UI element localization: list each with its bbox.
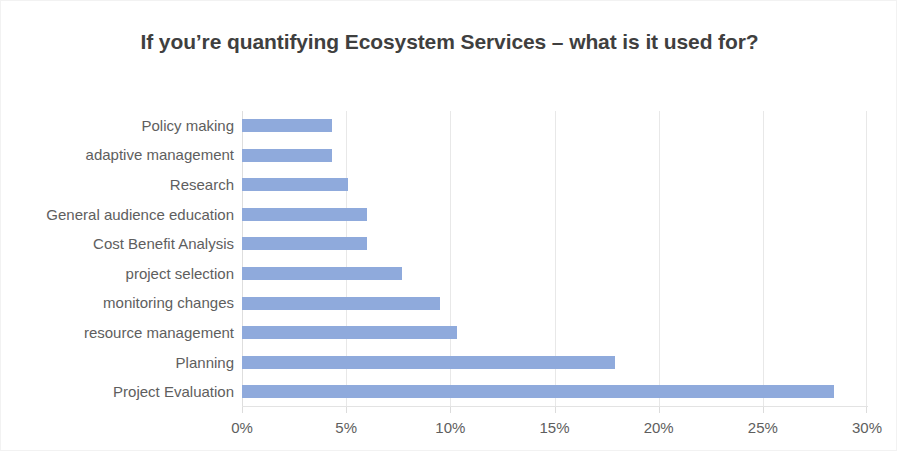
- bar-row: [242, 318, 867, 348]
- bar-row: [242, 259, 867, 289]
- chart-container: If you’re quantifying Ecosystem Services…: [0, 0, 897, 451]
- value-axis-tick-label: 0%: [212, 418, 272, 438]
- bar-row: [242, 348, 867, 378]
- category-label: adaptive management: [4, 146, 234, 164]
- tick-25%: [763, 407, 764, 413]
- bar-row: [242, 170, 867, 200]
- bar-row: [242, 229, 867, 259]
- tick-5%: [346, 407, 347, 413]
- bar[interactable]: [242, 326, 457, 339]
- category-label: General audience education: [4, 206, 234, 224]
- tick-20%: [659, 407, 660, 413]
- bar[interactable]: [242, 178, 348, 191]
- category-label: resource management: [4, 324, 234, 342]
- bar[interactable]: [242, 208, 367, 221]
- bar[interactable]: [242, 149, 332, 162]
- category-label: Project Evaluation: [4, 383, 234, 401]
- category-axis-labels: Policy makingadaptive managementResearch…: [1, 111, 234, 407]
- category-label: Research: [4, 176, 234, 194]
- value-axis-tick-label: 15%: [525, 418, 585, 438]
- bar[interactable]: [242, 356, 615, 369]
- plot-area: [242, 111, 867, 407]
- category-label: Planning: [4, 354, 234, 372]
- tick-0%: [242, 407, 243, 413]
- axis-baseline: [242, 406, 868, 407]
- value-axis-tick-label: 10%: [420, 418, 480, 438]
- bar-row: [242, 111, 867, 141]
- value-axis-tick-label: 20%: [629, 418, 689, 438]
- bar[interactable]: [242, 385, 834, 398]
- bar[interactable]: [242, 267, 402, 280]
- bar[interactable]: [242, 237, 367, 250]
- value-axis-labels: 0%5%10%15%20%25%30%: [1, 418, 897, 442]
- bar[interactable]: [242, 119, 332, 132]
- bar-row: [242, 141, 867, 171]
- tick-15%: [555, 407, 556, 413]
- category-label: monitoring changes: [4, 294, 234, 312]
- category-label: project selection: [4, 265, 234, 283]
- chart-title: If you’re quantifying Ecosystem Services…: [81, 27, 818, 56]
- tick-30%: [866, 407, 867, 413]
- value-axis-tick-label: 5%: [316, 418, 376, 438]
- category-label: Cost Benefit Analysis: [4, 235, 234, 253]
- value-axis-tick-label: 30%: [837, 418, 897, 438]
- value-axis-tick-label: 25%: [733, 418, 793, 438]
- category-label: Policy making: [4, 117, 234, 135]
- bar-row: [242, 289, 867, 319]
- bar[interactable]: [242, 297, 440, 310]
- bar-row: [242, 377, 867, 407]
- tick-10%: [450, 407, 451, 413]
- bar-row: [242, 200, 867, 230]
